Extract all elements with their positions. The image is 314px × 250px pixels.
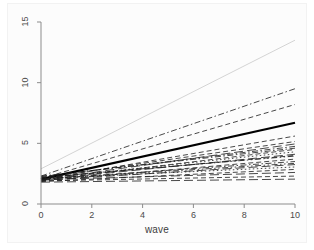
y-tick-label: 15 (21, 12, 30, 32)
x-tick-label: 2 (80, 211, 104, 220)
trajectory-line (41, 179, 295, 182)
trajectory-line (41, 89, 295, 176)
trajectory-line (41, 105, 295, 179)
y-tick-label: 10 (21, 72, 30, 92)
y-tick-label: 5 (21, 133, 30, 153)
x-axis-title: wave (0, 224, 314, 235)
trajectory-line (41, 149, 295, 180)
x-tick-label: 8 (232, 211, 256, 220)
chart-figure: 051015 0246810 wave (0, 0, 314, 250)
trajectory-line (41, 40, 295, 169)
x-tick-label: 0 (29, 211, 53, 220)
x-tick-label: 10 (283, 211, 307, 220)
x-tick-label: 4 (131, 211, 155, 220)
trajectory-lines (41, 40, 295, 182)
x-tick-label: 6 (181, 211, 205, 220)
